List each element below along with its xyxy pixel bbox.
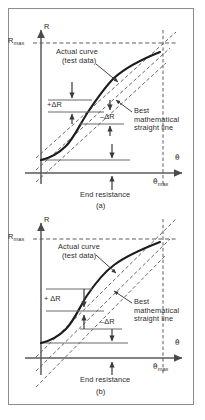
plus-delta-r-label-a: +ΔR (47, 101, 62, 110)
best-line-label-b: Best mathematical straight line (134, 298, 179, 324)
actual-curve-label-a: Actual curve (test data) (56, 48, 98, 65)
best-line-label-a: Best mathematical straight line (134, 107, 179, 133)
x-axis-label-a: θ (175, 154, 180, 163)
x-axis-label-glyph-a: θ (175, 153, 180, 162)
plus-delta-r-label-b: + ΔR (44, 295, 61, 304)
minus-delta-r-label-a: –ΔR (100, 113, 115, 122)
thetamax-label-a: θmax (153, 178, 169, 187)
figure-root: R θ Rmax θmax Actual curve (test data) +… (0, 0, 205, 420)
minus-delta-r-label-b: –ΔR (100, 318, 115, 327)
actual-curve-label-b: Actual curve (test data) (58, 243, 100, 260)
diagram-panel-b: R θ Rmax θmax Actual curve (test data) +… (0, 205, 205, 410)
end-resistance-label-b: End resistance (80, 376, 130, 385)
y-axis-label-b: R (44, 216, 49, 225)
x-axis-label-b: θ (175, 339, 180, 348)
actual-curve-leader (96, 64, 118, 82)
panel-caption-b: (b) (96, 387, 105, 396)
rmax-label-a: Rmax (8, 37, 24, 46)
best-line-leader (116, 100, 132, 112)
diagram-panel-a: R θ Rmax θmax Actual curve (test data) +… (0, 8, 205, 213)
end-resistance-label-a: End resistance (80, 191, 130, 200)
x-axis-label-glyph-b: θ (175, 338, 180, 347)
y-axis-label-a: R (44, 23, 49, 32)
thetamax-label-b: θmax (153, 363, 169, 372)
rmax-label-b: Rmax (8, 233, 24, 242)
